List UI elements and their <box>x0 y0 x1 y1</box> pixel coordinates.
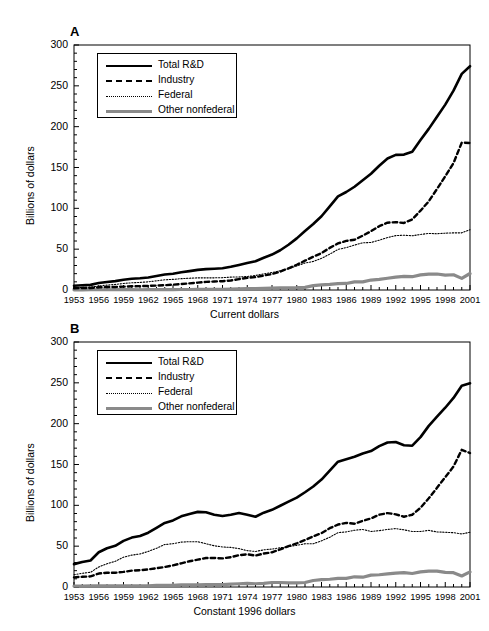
legend-label: Federal <box>158 386 193 397</box>
legend-label: Other nonfederal <box>158 401 234 412</box>
series-line-other-nonfederal <box>74 571 470 586</box>
legend-swatch-icon <box>106 362 152 368</box>
panel-b-plot <box>0 298 489 631</box>
series-line-other-nonfederal <box>74 274 470 290</box>
chart-panel-b: B Billions of dollars 050100150200250300… <box>0 298 489 631</box>
legend-swatch-icon <box>106 377 152 383</box>
legend-swatch-icon <box>106 110 152 117</box>
legend-label: Industry <box>158 74 194 85</box>
panel-b-x-caption: Constant 1996 dollars <box>0 605 489 617</box>
legend-swatch-icon <box>106 96 152 101</box>
series-line-industry <box>74 143 470 289</box>
panel-b-legend: Total R&DIndustryFederalOther nonfederal <box>97 350 237 415</box>
series-line-industry <box>74 450 470 578</box>
panel-a-plot <box>0 0 489 330</box>
legend-swatch-icon <box>106 80 152 86</box>
legend-label: Other nonfederal <box>158 104 234 115</box>
legend-label: Total R&D <box>158 356 204 367</box>
legend-swatch-icon <box>106 407 152 414</box>
legend-label: Industry <box>158 371 194 382</box>
legend-swatch-icon <box>106 393 152 398</box>
legend-label: Total R&D <box>158 59 204 70</box>
panel-a-legend: Total R&DIndustryFederalOther nonfederal <box>97 53 237 118</box>
legend-label: Federal <box>158 89 193 100</box>
legend-swatch-icon <box>106 65 152 71</box>
chart-panel-a: A Billions of dollars 050100150200250300… <box>0 0 489 330</box>
